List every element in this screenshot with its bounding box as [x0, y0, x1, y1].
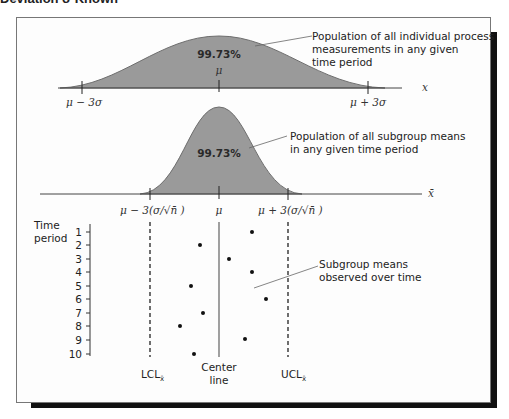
time-axis-labels: 1 2 3 4 5 6 7 8 9 10	[69, 226, 83, 360]
time-axis-title-line1: Time	[33, 219, 60, 231]
period-label: 6	[75, 293, 82, 305]
individual-percent-label: 99.73%	[197, 48, 241, 60]
period-label: 5	[75, 280, 82, 292]
observed-annotation-line2: observed over time	[319, 271, 422, 283]
individual-annotation-leader	[255, 36, 312, 46]
center-line-label-line2: line	[210, 374, 229, 386]
data-point	[264, 297, 268, 301]
period-label: 2	[75, 239, 82, 251]
subgroup-mu-label: μ	[216, 204, 223, 216]
individual-mu-label: μ	[216, 64, 223, 76]
data-point	[178, 324, 182, 328]
time-axis-ticks	[86, 232, 90, 354]
period-label: 10	[69, 348, 82, 360]
subgroup-mean-distribution-panel: 99.73% μ − 3(σ/√n̄ ) μ μ + 3(σ/√n̄ ) x̄ …	[40, 107, 465, 216]
xbar-axis-label: x̄	[428, 187, 434, 199]
period-label: 4	[75, 266, 82, 278]
data-point	[198, 243, 202, 247]
individual-annotation-line1: Population of all individual process	[312, 30, 494, 42]
ucl-label: UCLx̄	[281, 368, 306, 383]
period-label: 7	[75, 307, 82, 319]
period-label: 8	[75, 320, 82, 332]
data-point	[189, 284, 193, 288]
minus-3sigma-label: μ − 3σ	[66, 96, 103, 108]
x-axis-label: x	[422, 81, 428, 93]
data-point	[250, 230, 254, 234]
observed-annotation-leader	[254, 266, 318, 288]
time-axis-title-line2: period	[34, 232, 67, 244]
data-point	[201, 311, 205, 315]
individual-annotation-line3: time period	[312, 56, 373, 68]
data-point	[192, 352, 196, 356]
subgroup-annotation-line1: Population of all subgroup means	[290, 130, 465, 142]
observed-annotation-line1: Subgroup means	[319, 258, 408, 270]
subgroup-annotation-leader	[249, 136, 287, 148]
period-label: 3	[75, 253, 82, 265]
individual-distribution-panel: 99.73% μ μ − 3σ μ + 3σ x Population of a…	[58, 30, 494, 108]
period-label: 9	[75, 334, 82, 346]
subgroup-annotation-line2: in any given time period	[290, 143, 418, 155]
lcl-formula-label: μ − 3(σ/√n̄ )	[120, 204, 185, 216]
plus-3sigma-label: μ + 3σ	[350, 96, 387, 108]
period-label: 1	[75, 226, 82, 238]
subgroup-mean-points	[178, 230, 268, 356]
subgroup-percent-label: 99.73%	[197, 147, 241, 159]
lcl-label: LCLx̄	[141, 368, 164, 383]
data-point	[250, 270, 254, 274]
data-point	[243, 337, 247, 341]
data-point	[227, 257, 231, 261]
control-chart-diagram: 99.73% μ μ − 3σ μ + 3σ x Population of a…	[0, 0, 509, 419]
ucl-formula-label: μ + 3(σ/√n̄ )	[258, 204, 323, 216]
center-line-label-line1: Center	[201, 361, 237, 373]
control-chart-panel: Time period 1 2 3 4 5 6 7 8 9 10	[33, 219, 422, 386]
individual-annotation-line2: measurements in any given	[312, 43, 459, 55]
